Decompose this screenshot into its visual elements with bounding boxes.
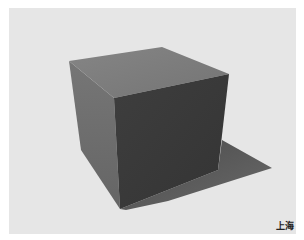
cube-drawing [0, 0, 304, 240]
caption-label: 上海 [276, 221, 294, 231]
